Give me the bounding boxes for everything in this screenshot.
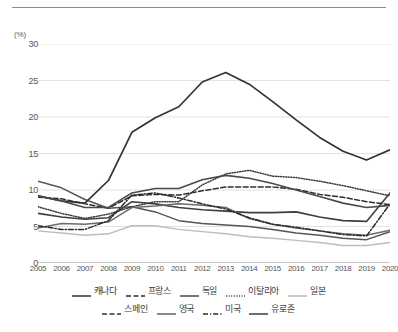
x-axis-tick-label: 2013 [218,264,234,273]
gridlines [38,44,390,227]
x-axis-tick-label: 2010 [147,264,163,273]
x-axis-tick-labels: 2005200620072008200920102011201220132014… [0,264,397,280]
legend-line-swatch [226,286,245,294]
legend-row: 스페인영국미국유로존 [0,299,397,317]
y-axis-tick-label: 5 [14,222,38,232]
legend-item[interactable]: 프랑스 [126,284,171,297]
legend-label: 이탈리아 [248,284,279,297]
legend-line-swatch [157,304,176,312]
y-axis-tick-label: 15 [14,149,38,159]
y-axis-tick-label: 20 [14,112,38,122]
legend-label: 독일 [202,284,217,297]
x-axis-tick-label: 2008 [100,264,116,273]
legend-line-swatch [180,286,199,294]
legend-item[interactable]: 일본 [288,284,325,297]
x-axis-tick-label: 2016 [288,264,304,273]
legend-item[interactable]: 스페인 [102,302,147,315]
x-axis-tick-label: 2005 [30,264,46,273]
legend-label: 일본 [310,284,325,297]
legend-line-swatch [203,304,222,312]
legend-item[interactable]: 유로존 [249,302,294,315]
legend-label: 스페인 [124,302,147,315]
x-axis-tick-label: 2017 [311,264,327,273]
series-line [38,72,390,203]
y-axis-tick-label: 10 [14,185,38,195]
x-axis-tick-label: 2014 [241,264,257,273]
legend-item[interactable]: 영국 [157,302,194,315]
legend-label: 캐나다 [94,284,117,297]
series-canvas [38,44,390,263]
legend-line-swatch [126,286,145,294]
legend-row: 캐나다프랑스독일이탈리아일본 [0,281,397,299]
legend-label: 영국 [179,302,194,315]
x-axis-tick-label: 2007 [77,264,93,273]
y-axis-tick-label: 30 [14,39,38,49]
x-axis-tick-label: 2020 [382,264,398,273]
legend-item[interactable]: 독일 [180,284,217,297]
legend-item[interactable]: 미국 [203,302,240,315]
legend-line-swatch [249,304,268,312]
plot-area [38,44,390,263]
chart-legend: 캐나다프랑스독일이탈리아일본스페인영국미국유로존 [0,281,397,317]
x-axis-tick-label: 2012 [194,264,210,273]
legend-item[interactable]: 캐나다 [72,284,117,297]
x-axis-tick-label: 2006 [53,264,69,273]
legend-line-swatch [102,304,121,312]
top-divider-rule [12,7,386,8]
series-lines [38,72,390,245]
x-axis-tick-label: 2019 [358,264,374,273]
series-line [38,226,390,246]
legend-line-swatch [72,286,91,294]
legend-line-swatch [288,286,307,294]
x-axis-tick-label: 2018 [335,264,351,273]
x-axis-tick-label: 2015 [264,264,280,273]
legend-label: 미국 [225,302,240,315]
series-line [38,193,390,236]
y-axis-tick-label: 25 [14,76,38,86]
legend-item[interactable]: 이탈리아 [226,284,279,297]
x-axis-tick-label: 2009 [124,264,140,273]
x-axis-tick-label: 2011 [171,264,187,273]
legend-label: 프랑스 [148,284,171,297]
legend-label: 유로존 [271,302,294,315]
